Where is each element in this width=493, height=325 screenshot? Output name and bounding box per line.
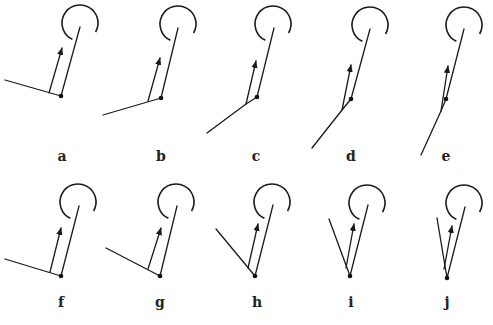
- main-rod: [61, 206, 79, 276]
- panel-c: c: [207, 6, 291, 164]
- pivot-dot: [444, 97, 449, 102]
- pendulum-diagram: abcdefghij: [0, 0, 493, 325]
- force-arrow-icon: [248, 224, 258, 268]
- force-arrow-icon: [342, 65, 351, 110]
- swing-segment: [216, 229, 255, 276]
- main-rod: [447, 207, 465, 278]
- panel-label: f: [58, 294, 65, 310]
- pivot-dot: [349, 97, 354, 102]
- panel-h: h: [216, 184, 290, 310]
- panel-label: g: [155, 294, 165, 310]
- pivot-dot: [255, 95, 260, 100]
- force-arrow-icon: [148, 58, 160, 101]
- force-arrow-icon: [148, 228, 161, 269]
- force-arrow-icon: [346, 224, 354, 268]
- pivot-dot: [445, 276, 450, 281]
- panel-e: e: [421, 7, 482, 164]
- swing-segment: [207, 97, 257, 133]
- pivot-dot: [59, 94, 64, 99]
- pivot-dot: [253, 274, 258, 279]
- hook-arc: [160, 6, 196, 40]
- hook-arc: [446, 185, 482, 219]
- hook-arc: [158, 184, 194, 218]
- panel-j: j: [437, 185, 482, 310]
- pivot-dot: [59, 274, 64, 279]
- hook-arc: [254, 184, 290, 218]
- swing-segment: [437, 218, 447, 278]
- swing-segment: [103, 98, 161, 115]
- swing-segment: [106, 248, 160, 276]
- main-rod: [161, 28, 178, 98]
- panel-label: a: [57, 148, 66, 164]
- panel-f: f: [5, 184, 96, 310]
- hook-arc: [62, 5, 98, 39]
- force-arrow-icon: [246, 61, 256, 104]
- hook-arc: [446, 7, 482, 41]
- swing-segment: [312, 99, 351, 148]
- panel-label: c: [252, 148, 261, 164]
- hook-arc: [255, 6, 291, 40]
- hook-arc: [60, 184, 96, 218]
- panel-label: e: [442, 148, 451, 164]
- panel-d: d: [312, 7, 388, 164]
- force-arrow-icon: [50, 228, 61, 272]
- main-rod: [160, 206, 177, 276]
- pivot-dot: [159, 96, 164, 101]
- force-arrow-icon: [49, 48, 62, 93]
- hook-arc: [352, 7, 388, 41]
- swing-segment: [421, 99, 446, 155]
- panel-label: h: [252, 294, 262, 310]
- main-rod: [255, 205, 273, 276]
- panel-i: i: [329, 185, 385, 310]
- hook-arc: [349, 185, 385, 219]
- main-rod: [350, 205, 368, 276]
- panel-g: g: [106, 184, 194, 310]
- swing-segment: [329, 219, 350, 276]
- panel-b: b: [103, 6, 196, 164]
- panel-label: j: [442, 294, 449, 310]
- main-rod: [257, 28, 274, 97]
- main-rod: [446, 29, 464, 99]
- panel-label: b: [156, 148, 166, 164]
- panel-label: i: [348, 294, 353, 310]
- panel-a: a: [5, 5, 98, 164]
- pivot-dot: [158, 274, 163, 279]
- panel-label: d: [346, 148, 356, 164]
- pivot-dot: [348, 274, 353, 279]
